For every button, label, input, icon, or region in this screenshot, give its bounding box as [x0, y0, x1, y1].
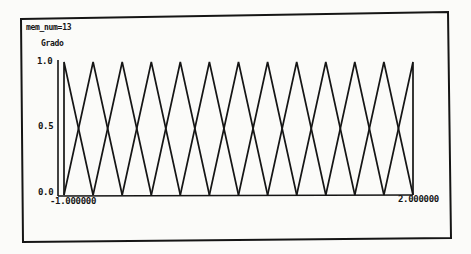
- membership-function-9: [268, 62, 326, 195]
- membership-function-8: [239, 62, 297, 195]
- chart-title: mem_num=13: [26, 24, 71, 32]
- window-border: [21, 12, 451, 242]
- x-tick-label-max: 2.000000: [398, 195, 439, 204]
- membership-function-3: [93, 62, 151, 195]
- chart-frame: [0, 0, 471, 254]
- x-tick-label-min: -1.000000: [50, 197, 96, 206]
- membership-function-6: [180, 62, 238, 195]
- membership-function-2: [64, 62, 122, 195]
- y-tick-label-0-5: 0.5: [38, 122, 53, 131]
- y-tick-label-1: 1.0: [37, 57, 52, 66]
- membership-function-11: [326, 62, 384, 195]
- membership-functions: [64, 62, 413, 195]
- membership-function-12: [355, 62, 413, 195]
- membership-function-4: [122, 62, 180, 195]
- x-axis: [58, 195, 413, 196]
- membership-function-10: [297, 62, 355, 195]
- membership-function-7: [209, 62, 267, 195]
- y-axis-label: Grado: [41, 40, 64, 48]
- membership-function-5: [151, 62, 209, 195]
